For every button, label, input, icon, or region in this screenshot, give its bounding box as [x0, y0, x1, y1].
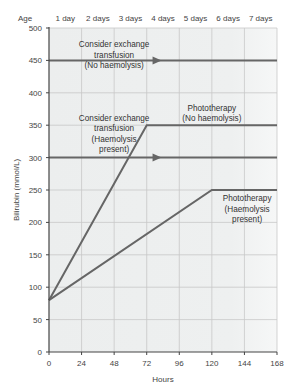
series-label: Phototherapy(No haemolysis) [182, 104, 241, 124]
x-tick-label: 0 [47, 359, 52, 368]
y-tick-label: 200 [29, 218, 43, 227]
top-axis-tick-label: 6 days [216, 14, 240, 23]
x-tick-label: 120 [205, 359, 219, 368]
series-label-line: present) [232, 215, 262, 224]
y-tick-label: 50 [33, 316, 42, 325]
y-axis-label: Bilirubin (mmol/L) [12, 159, 21, 222]
y-tick-label: 150 [29, 251, 43, 260]
series-label-line: Phototherapy [187, 104, 237, 113]
top-axis-tick-label: 1 day [55, 14, 75, 23]
series-label-line: Consider exchange [79, 40, 150, 49]
series-label-line: (Haemolysis [92, 135, 137, 144]
y-tick-label: 500 [29, 24, 43, 33]
y-tick-label: 350 [29, 121, 43, 130]
series-label-line: (Haemolysis [225, 205, 270, 214]
x-axis-label: Hours [152, 375, 173, 384]
top-axis-label: Age [18, 14, 33, 23]
top-axis-tick-label: 5 days [184, 14, 208, 23]
x-tick-label: 48 [110, 359, 119, 368]
series-label-line: Phototherapy [223, 194, 273, 203]
series-label-line: present) [99, 145, 129, 154]
y-tick-label: 250 [29, 186, 43, 195]
x-tick-label: 72 [142, 359, 151, 368]
series-label-line: Consider exchange [79, 114, 150, 123]
y-tick-label: 400 [29, 89, 43, 98]
y-tick-label: 100 [29, 283, 43, 292]
series-label-line: (No haemolysis) [85, 61, 144, 70]
top-axis-tick-label: 3 days [119, 14, 143, 23]
y-tick-label: 300 [29, 154, 43, 163]
series-label-line: (No haemolysis) [182, 114, 241, 123]
series-label-line: transfusion [94, 51, 134, 60]
x-tick-label: 24 [77, 359, 86, 368]
x-tick-label: 144 [238, 359, 252, 368]
top-axis-tick-label: 4 days [151, 14, 175, 23]
x-tick-label: 168 [270, 359, 284, 368]
y-tick-label: 0 [38, 348, 43, 357]
x-tick-label: 96 [175, 359, 184, 368]
top-axis-tick-label: 7 days [249, 14, 273, 23]
bilirubin-chart: 0501001502002503003504004505000244872961… [0, 0, 291, 390]
top-axis-tick-label: 2 days [86, 14, 110, 23]
y-tick-label: 450 [29, 56, 43, 65]
series-label-line: transfusion [94, 124, 134, 133]
